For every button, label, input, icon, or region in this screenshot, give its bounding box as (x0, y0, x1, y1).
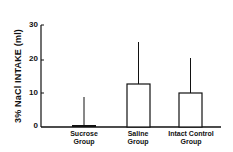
x-label-intact-control: Intact ControlGroup (161, 130, 221, 146)
bar-chart: 3% NaCl INTAKE (ml) 30 20 10 0 SucroseGr… (0, 0, 233, 152)
bar-sucrose (72, 97, 96, 127)
bar-intact-control (179, 58, 202, 127)
x-label-sucrose: SucroseGroup (54, 130, 114, 146)
x-label-saline: SalineGroup (108, 130, 168, 146)
bar-saline (127, 42, 150, 127)
